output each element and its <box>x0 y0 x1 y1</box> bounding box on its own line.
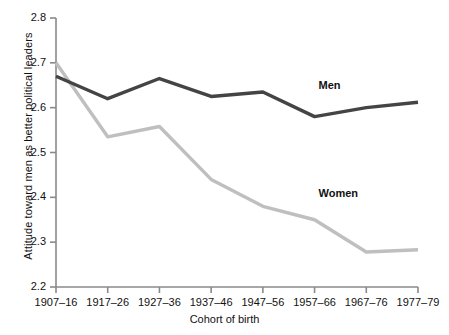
series-label-men: Men <box>319 79 341 91</box>
y-tick-label: 2.6 <box>20 102 46 113</box>
x-axis-title: Cohort of birth <box>0 313 449 325</box>
x-tick-label: 1977–79 <box>388 297 448 308</box>
series-label-women: Women <box>319 187 359 199</box>
y-tick-label: 2.3 <box>20 236 46 247</box>
chart-figure: Attitude toward men as better political … <box>0 0 449 335</box>
y-tick-label: 2.4 <box>20 191 46 202</box>
y-tick-label: 2.5 <box>20 147 46 158</box>
y-tick-label: 2.8 <box>20 12 46 23</box>
y-tick-label: 2.2 <box>20 281 46 292</box>
y-tick-label: 2.7 <box>20 57 46 68</box>
chart-plot-area <box>0 0 449 335</box>
